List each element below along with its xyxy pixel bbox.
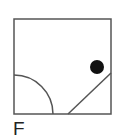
diagonal-line	[68, 73, 111, 114]
figure-label: F	[13, 119, 25, 139]
black-dot	[90, 60, 104, 74]
quarter-arc	[14, 75, 53, 114]
